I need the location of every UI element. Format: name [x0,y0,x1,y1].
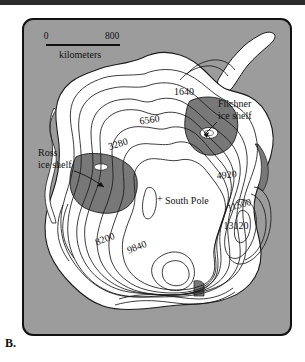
map-panel: 0 800 kilometers Filchner ice shelf Ross… [22,18,292,336]
ross-label-line2: ice shelf [38,159,72,170]
filchner-label-line2: ice shelf [218,110,252,121]
figure-antarctica-ice-thickness: 0 800 kilometers Filchner ice shelf Ross… [0,0,305,362]
ross-label-line1: Ross [38,147,58,158]
south-pole-cross-icon: + [157,193,163,204]
contour-label-1640: 1640 [174,86,194,97]
scale-max-label: 800 [105,31,120,41]
figure-label: B. [5,336,16,351]
contour-label-13120: 13120 [224,220,249,231]
antarctica-contour-map: 0 800 kilometers Filchner ice shelf Ross… [22,18,292,336]
scale-unit-label: kilometers [59,49,101,60]
contour-label-4920: 4920 [216,168,237,181]
south-pole-marker-group: + South Pole [157,193,209,206]
south-pole-label: South Pole [165,195,209,206]
scale-min-label: 0 [44,31,49,41]
filchner-label-line1: Filchner [218,98,252,109]
